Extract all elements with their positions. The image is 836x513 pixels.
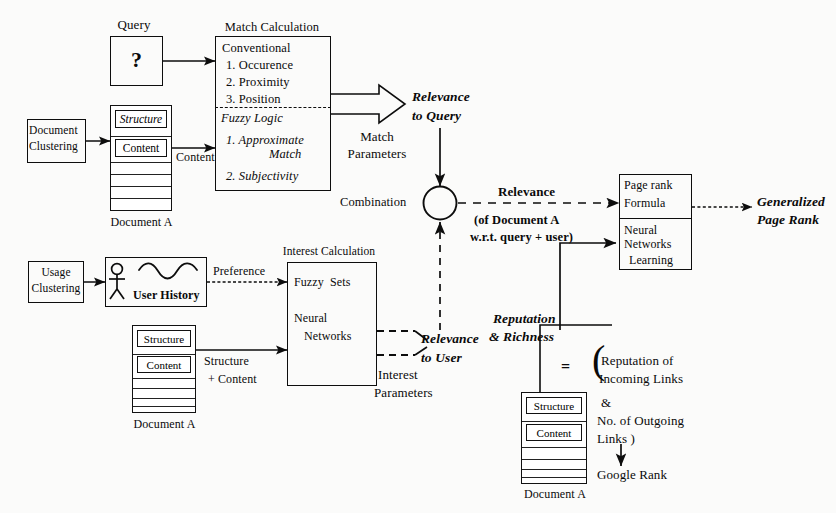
document-a-top-structure-label: Structure bbox=[120, 113, 162, 125]
interest-calculation-caption: Interest Calculation bbox=[270, 245, 388, 257]
page-rank-neural-line1: Neural bbox=[624, 224, 657, 237]
match-conventional-item-1: 1. Occurence bbox=[226, 59, 293, 73]
document-a-mid-structure-field: Structure bbox=[137, 330, 191, 347]
page-rank-learning: Learning bbox=[629, 254, 673, 267]
page-rank-neural-line2: Networks bbox=[624, 238, 671, 251]
interest-fuzzy-sets: Fuzzy Sets bbox=[294, 276, 350, 289]
reputation-expr-line1: Reputation of bbox=[601, 354, 673, 368]
match-fuzzy-heading: Fuzzy Logic bbox=[221, 112, 283, 126]
generalized-page-rank-line2: Page Rank bbox=[757, 213, 819, 228]
interest-neural-line2: Networks bbox=[304, 330, 351, 343]
doc-sep bbox=[111, 186, 171, 187]
match-fuzzy-item-1b: Match bbox=[269, 148, 301, 162]
hollow-arrow-match-parameters bbox=[331, 85, 405, 123]
doc-sep bbox=[111, 162, 171, 163]
match-calculation-caption: Match Calculation bbox=[206, 21, 338, 35]
generalized-page-rank-line1: Generalized bbox=[757, 195, 825, 210]
doc-sep bbox=[522, 469, 586, 470]
document-a-bottom-caption: Document A bbox=[517, 488, 593, 501]
edge-label-preference: Preference bbox=[213, 265, 265, 278]
combination-circle bbox=[424, 187, 457, 220]
query-symbol: ? bbox=[110, 48, 163, 72]
doc-sep bbox=[522, 477, 586, 478]
document-clustering-line1: Document bbox=[29, 124, 78, 136]
match-parameters-line2: Parameters bbox=[330, 147, 424, 161]
document-a-top-caption: Document A bbox=[104, 216, 179, 229]
reputation-expr-line5: Links ) bbox=[597, 432, 635, 446]
document-a-mid-content-field: Content bbox=[137, 356, 191, 373]
document-a-mid-caption: Document A bbox=[127, 418, 202, 431]
user-history-label: User History bbox=[133, 289, 200, 302]
document-a-top-structure-field: Structure bbox=[115, 110, 167, 128]
page-rank-formula-line2: Formula bbox=[624, 197, 665, 210]
document-a-top-content-field: Content bbox=[115, 139, 167, 157]
reputation-title-line1: Reputation bbox=[493, 312, 556, 327]
reputation-result-google-rank: Google Rank bbox=[597, 468, 667, 482]
relevance-to-user-line1: Relevance bbox=[421, 332, 479, 347]
reputation-title-line2: & Richness bbox=[489, 330, 554, 345]
diagram-canvas: Query ? Match Calculation Conventional 1… bbox=[0, 0, 836, 513]
doc-sep bbox=[133, 406, 195, 407]
match-conventional-heading: Conventional bbox=[222, 42, 291, 56]
document-a-mid-content-label: Content bbox=[147, 359, 182, 371]
match-conventional-item-3: 3. Position bbox=[226, 93, 281, 107]
document-a-bottom-structure-field: Structure bbox=[526, 397, 582, 414]
doc-sep bbox=[522, 459, 586, 460]
match-parameters-line1: Match bbox=[336, 130, 418, 144]
edge-label-structure-content-l2: + Content bbox=[208, 373, 257, 386]
doc-sep bbox=[133, 388, 195, 389]
interest-parameters-line2: Parameters bbox=[374, 386, 433, 400]
interest-neural-line1: Neural bbox=[294, 312, 327, 325]
reputation-equals: = bbox=[561, 358, 570, 375]
relevance-to-query-line2: to Query bbox=[412, 109, 461, 124]
reputation-expr-line4: No. of Outgoing bbox=[597, 414, 684, 428]
reputation-expr-line2: Incoming Links bbox=[599, 372, 683, 386]
relevance-combined-sub2: w.r.t. query + user) bbox=[470, 231, 573, 245]
match-conventional-item-2: 2. Proximity bbox=[226, 76, 290, 90]
document-a-mid-structure-label: Structure bbox=[144, 333, 184, 345]
document-a-bottom-content-label: Content bbox=[537, 427, 572, 439]
document-clustering-line2: Clustering bbox=[29, 140, 78, 152]
match-fuzzy-item-2: 2. Subjectivity bbox=[226, 170, 298, 184]
doc-sep bbox=[111, 198, 171, 199]
doc-sep bbox=[522, 447, 586, 448]
doc-sep bbox=[133, 354, 195, 355]
doc-sep bbox=[522, 421, 586, 422]
relevance-to-query-line1: Relevance bbox=[412, 90, 470, 105]
combination-label: Combination bbox=[340, 196, 406, 210]
interest-parameters-line1: Interest bbox=[378, 368, 418, 382]
page-rank-box-divider bbox=[619, 218, 692, 219]
doc-sep bbox=[111, 174, 171, 175]
document-a-bottom-structure-label: Structure bbox=[534, 400, 574, 412]
query-caption: Query bbox=[104, 18, 164, 32]
edge-label-content: Content bbox=[176, 151, 215, 164]
reputation-expr-line3: & bbox=[601, 396, 611, 410]
relevance-combined-sub1: (of Document A bbox=[474, 214, 559, 228]
usage-clustering-line2: Clustering bbox=[26, 282, 86, 294]
usage-clustering-line1: Usage bbox=[28, 266, 84, 278]
page-rank-formula-line1: Page rank bbox=[624, 179, 673, 192]
doc-sep bbox=[133, 398, 195, 399]
document-a-top-content-label: Content bbox=[123, 142, 159, 154]
match-calculation-divider bbox=[215, 107, 331, 108]
edge-reputation-to-neuralnet bbox=[560, 243, 616, 330]
doc-sep bbox=[111, 136, 171, 137]
relevance-combined-title: Relevance bbox=[498, 185, 555, 199]
edge-label-structure-content-l1: Structure bbox=[204, 355, 249, 368]
relevance-to-user-line2: to User bbox=[421, 351, 462, 366]
doc-sep bbox=[133, 378, 195, 379]
document-a-bottom-content-field: Content bbox=[526, 424, 582, 441]
match-fuzzy-item-1: 1. Approximate bbox=[226, 134, 304, 148]
